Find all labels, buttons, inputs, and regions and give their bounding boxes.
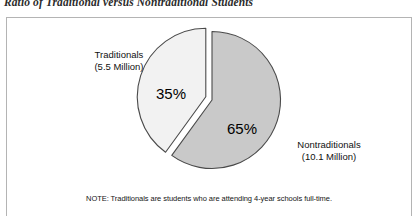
slice-value-traditionals: 35%: [156, 85, 186, 102]
figure-frame: 35% 65% Traditionals (5.5 Million) Nontr…: [6, 17, 412, 216]
callout-nontraditionals-count: (10.1 Million): [275, 151, 383, 163]
callout-traditionals-name: Traditionals: [95, 49, 144, 60]
callout-nontraditionals: Nontraditionals (10.1 Million): [275, 139, 383, 163]
callout-traditionals: Traditionals (5.5 Million): [71, 49, 167, 73]
pie-chart: 35% 65% Traditionals (5.5 Million) Nontr…: [7, 18, 413, 216]
figure-note: NOTE: Traditionals are students who are …: [7, 194, 411, 203]
pie-chart-svg: [7, 18, 413, 216]
callout-traditionals-count: (5.5 Million): [71, 61, 167, 73]
page-title: Ratio of Traditional versus Nontradition…: [4, 0, 253, 8]
callout-nontraditionals-name: Nontraditionals: [297, 139, 360, 150]
slice-value-nontraditionals: 65%: [227, 120, 257, 137]
